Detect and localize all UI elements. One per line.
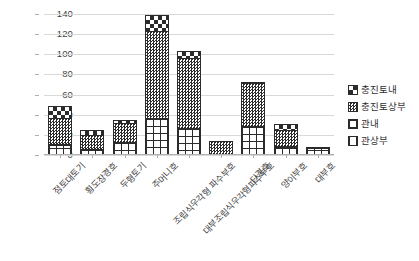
y-axis-tick-mark	[35, 54, 39, 55]
bar-segment	[178, 129, 200, 154]
legend-item[interactable]: 충진토내	[348, 84, 418, 95]
bar-segment	[275, 131, 297, 147]
bar-slot	[270, 14, 302, 155]
x-axis-label-slot: 대부호	[302, 157, 334, 257]
x-axis-label-slot: 횡도장경호	[76, 157, 108, 257]
y-axis-tick-mark	[35, 155, 39, 156]
x-axis-label-slot: 주머니호	[141, 157, 173, 257]
x-axis-tick-mark	[318, 155, 319, 158]
legend-item[interactable]: 관내	[348, 118, 418, 129]
plot-area	[44, 14, 334, 155]
legend-label: 충진토내	[361, 85, 397, 95]
bar-slot	[173, 14, 205, 155]
x-axis-label-slot: 조립식우각형 파수부호	[173, 157, 205, 257]
x-axis-label-slot: 점토대토기	[44, 157, 76, 257]
bar-segment	[81, 136, 103, 150]
stacked-bar[interactable]	[209, 141, 233, 155]
bar-slot	[237, 14, 269, 155]
x-axis-tick-mark	[92, 155, 93, 158]
chart-legend: 충진토내충진토상부관내관상부	[348, 84, 418, 152]
legend-swatch-icon	[348, 136, 358, 146]
bar-slot	[302, 14, 334, 155]
legend-label: 관상부	[361, 136, 388, 146]
x-axis-label-slot: 대부조립식우각형파수부호	[205, 157, 237, 257]
bar-segment	[146, 32, 168, 119]
x-axis-tick-mark	[221, 155, 222, 158]
bar-segment	[114, 143, 136, 154]
x-axis-tick-mark	[189, 155, 190, 158]
legend-label: 관내	[361, 119, 379, 129]
bar-segment	[178, 59, 200, 128]
stacked-bar-chart: 140120100806040200 점토대토기횡도장경호두형토기주머니호조립식…	[0, 0, 419, 261]
y-axis-tick-mark	[35, 14, 39, 15]
stacked-bar[interactable]	[274, 124, 298, 155]
legend-item[interactable]: 관상부	[348, 135, 418, 146]
x-axis-tick-mark	[60, 155, 61, 158]
y-axis-tick-mark	[35, 115, 39, 116]
bar-segment	[49, 119, 71, 145]
x-axis-tick-mark	[157, 155, 158, 158]
legend-item[interactable]: 충진토상부	[348, 101, 418, 112]
x-axis-label-slot: 양이부호	[270, 157, 302, 257]
legend-swatch-icon	[348, 85, 358, 95]
bar-segment	[49, 107, 71, 119]
stacked-bar[interactable]	[241, 82, 265, 156]
bar-slot	[205, 14, 237, 155]
bar-segment	[146, 16, 168, 32]
x-axis-tick-mark	[286, 155, 287, 158]
y-axis-tick-mark	[35, 95, 39, 96]
bar-segment	[146, 119, 168, 154]
stacked-bar[interactable]	[48, 106, 72, 155]
bar-segment	[242, 127, 264, 149]
stacked-bar[interactable]	[80, 130, 104, 155]
x-axis-label-slot: 두형토기	[108, 157, 140, 257]
bar-segment	[114, 124, 136, 143]
legend-swatch-icon	[348, 119, 358, 129]
stacked-bar[interactable]	[145, 15, 169, 155]
bar-segment	[242, 84, 264, 127]
legend-label: 충진토상부	[361, 102, 406, 112]
x-axis-label-slot: 단경호	[237, 157, 269, 257]
stacked-bar[interactable]	[113, 120, 137, 155]
bar-group	[44, 14, 334, 155]
bar-segment	[178, 52, 200, 59]
x-axis-labels: 점토대토기횡도장경호두형토기주머니호조립식우각형 파수부호대부조립식우각형파수부…	[44, 157, 334, 257]
y-axis-tick-mark	[35, 74, 39, 75]
bar-slot	[76, 14, 108, 155]
y-axis-tick-mark	[35, 34, 39, 35]
bar-slot	[44, 14, 76, 155]
x-axis-tick-mark	[253, 155, 254, 158]
x-axis-tick-mark	[125, 155, 126, 158]
bar-slot	[108, 14, 140, 155]
bar-slot	[141, 14, 173, 155]
legend-swatch-icon	[348, 102, 358, 112]
y-axis-tick-mark	[35, 135, 39, 136]
bar-segment	[210, 142, 232, 154]
stacked-bar[interactable]	[177, 51, 201, 155]
x-axis-tick-label: 대부호	[313, 161, 337, 185]
